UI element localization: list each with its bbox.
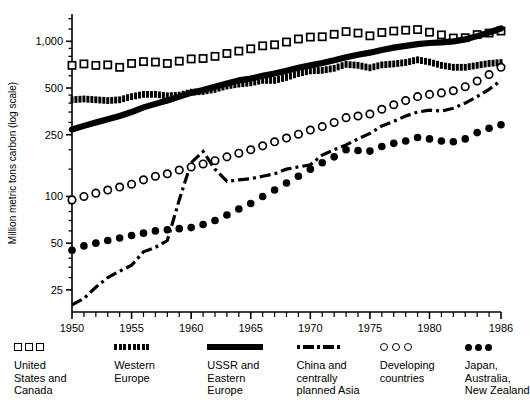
filled-square-marker-icon xyxy=(114,340,151,354)
chart-legend: United States and Canada Western Europe … xyxy=(0,340,530,418)
open-circle-marker-icon xyxy=(380,340,416,354)
legend-item-united-states-and-canada: United States and Canada xyxy=(14,340,79,397)
x-tick-label: 1970 xyxy=(298,322,322,334)
dash-dot-line-marker-icon xyxy=(297,340,343,354)
legend-item-western-europe: Western Europe xyxy=(114,340,179,384)
x-tick-label: 1955 xyxy=(119,322,143,334)
x-tick-label: 1986 xyxy=(489,322,513,334)
x-tick-label: 1980 xyxy=(417,322,441,334)
series-china-and-centrally-planned-asia xyxy=(72,80,501,305)
legend-item-developing-countries: Developing countries xyxy=(380,340,445,384)
legend-item-japan-australia-new-zealand: Japan, Australia, New Zealand xyxy=(465,340,530,397)
legend-label-united-states-and-canada: United States and Canada xyxy=(14,359,79,397)
open-square-marker-icon xyxy=(14,340,47,354)
y-tick-label: 250 xyxy=(45,129,63,141)
chart-plot-area: 25501002505001,0001950195519601965197019… xyxy=(0,0,530,340)
legend-label-ussr-and-eastern-europe: USSR and Eastern Europe xyxy=(207,359,272,397)
x-tick-label: 1965 xyxy=(239,322,263,334)
chart-svg: 25501002505001,0001950195519601965197019… xyxy=(0,0,530,340)
y-tick-label: 100 xyxy=(45,190,63,202)
legend-label-japan-australia-new-zealand: Japan, Australia, New Zealand xyxy=(465,359,530,397)
y-tick-label: 25 xyxy=(51,284,63,296)
y-tick-label: 500 xyxy=(45,82,63,94)
legend-item-ussr-and-eastern-europe: USSR and Eastern Europe xyxy=(207,340,272,397)
filled-circle-marker-icon xyxy=(465,340,495,354)
x-tick-label: 1950 xyxy=(60,322,84,334)
legend-label-developing-countries: Developing countries xyxy=(380,359,445,384)
x-tick-label: 1975 xyxy=(358,322,382,334)
y-tick-label: 1,000 xyxy=(35,35,63,47)
y-tick-label: 50 xyxy=(51,237,63,249)
legend-item-china-and-centrally-planned-asia: China and centrally planned Asia xyxy=(297,340,362,397)
legend-label-china-and-centrally-planned-asia: China and centrally planned Asia xyxy=(297,359,362,397)
solid-line-marker-icon xyxy=(207,340,263,354)
y-axis-title: Million metric tons carbon (log scale) xyxy=(7,82,18,244)
series-united-states-and-canada xyxy=(68,26,504,71)
x-tick-label: 1960 xyxy=(179,322,203,334)
legend-label-western-europe: Western Europe xyxy=(114,359,179,384)
chart-page: 25501002505001,0001950195519601965197019… xyxy=(0,0,530,418)
